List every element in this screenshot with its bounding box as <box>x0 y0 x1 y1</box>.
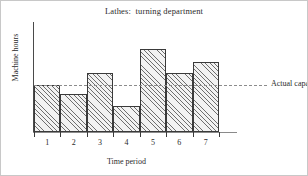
bar-period-6 <box>166 73 192 132</box>
x-tick-label-5: 5 <box>142 138 164 147</box>
x-axis-tick <box>60 132 61 137</box>
x-axis-tick <box>219 132 220 137</box>
x-tick-label-6: 6 <box>168 138 190 147</box>
x-tick-label-3: 3 <box>89 138 111 147</box>
x-axis-tick <box>193 132 194 137</box>
chart-figure: Lathes: turning department Machine hours… <box>0 0 308 176</box>
x-axis-tick <box>113 132 114 137</box>
bar-period-2 <box>60 94 86 132</box>
x-axis-label: Time period <box>34 157 219 166</box>
x-axis-tick <box>34 132 35 137</box>
bar-series <box>34 22 219 132</box>
x-tick-label-1: 1 <box>36 138 58 147</box>
x-tick-label-7: 7 <box>195 138 217 147</box>
y-axis-label: Machine hours <box>11 22 20 94</box>
x-axis-tick <box>166 132 167 137</box>
x-axis-tick <box>140 132 141 137</box>
bar-period-4 <box>113 106 139 132</box>
bar-period-3 <box>87 73 113 132</box>
x-axis-tick <box>87 132 88 137</box>
actual-capacity-label: Actual capacity <box>271 79 308 88</box>
bar-period-1 <box>34 85 60 132</box>
bar-period-7 <box>193 62 219 132</box>
actual-capacity-line <box>34 85 267 86</box>
x-axis-line <box>33 132 237 133</box>
x-tick-label-2: 2 <box>63 138 85 147</box>
chart-title: Lathes: turning department <box>1 6 307 16</box>
bar-period-5 <box>140 49 166 132</box>
x-tick-label-4: 4 <box>116 138 138 147</box>
